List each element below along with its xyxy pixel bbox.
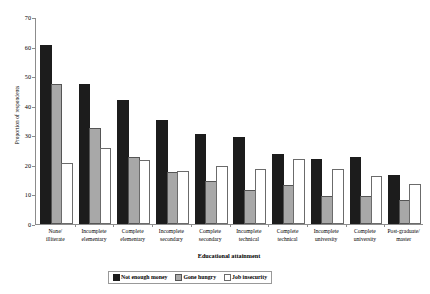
x-axis-category-label: Incompletetechnical (230, 228, 269, 243)
x-axis-category-label-line: illiterate (36, 236, 75, 244)
x-axis-category-label-line: master (384, 236, 423, 244)
x-axis-category-label-line: None/ (36, 228, 75, 236)
legend-swatch-icon (224, 274, 231, 282)
x-axis-category-label: None/illiterate (36, 228, 75, 243)
bar-group (346, 18, 385, 224)
legend-item: Gone hungry (175, 274, 216, 282)
x-axis-category-label-line: Complete (113, 228, 152, 236)
legend-label: Job insecurity (232, 274, 267, 280)
x-axis-tick-mark (230, 224, 231, 227)
bar (100, 148, 112, 224)
x-axis-category-label-line: Post-graduate/ (384, 228, 423, 236)
y-axis-tick-label: 10 (17, 192, 31, 198)
y-axis-tick-mark (32, 195, 35, 196)
bar (139, 160, 151, 224)
bar (332, 169, 344, 224)
y-axis-tick-label: 70 (17, 15, 31, 21)
y-axis-tick-mark (32, 48, 35, 49)
legend-swatch-icon (113, 274, 120, 282)
bar (177, 171, 189, 225)
x-axis-category-label-line: Incomplete (307, 228, 346, 236)
y-axis-tick-mark (32, 136, 35, 137)
x-axis-category-label-line: Complete (268, 228, 307, 236)
x-axis-category-label-line: Complete (191, 228, 230, 236)
bar (61, 163, 73, 224)
bar-group (152, 18, 191, 224)
x-axis-category-labels: None/illiterateIncompleteelementaryCompl… (36, 228, 423, 250)
x-axis-tick-mark (113, 224, 114, 227)
chart-legend: Not enough moneyGone hungryJob insecurit… (108, 271, 272, 284)
x-axis-category-label-line: elementary (113, 236, 152, 244)
y-axis-tick-label: 30 (17, 133, 31, 139)
x-axis-tick-mark (268, 224, 269, 227)
x-axis-category-label: Incompletesecondary (152, 228, 191, 243)
x-axis-tick-mark (191, 224, 192, 227)
x-axis-tick-mark (75, 224, 76, 227)
y-axis-tick-label: 60 (17, 45, 31, 51)
x-axis-category-label-line: Complete (346, 228, 385, 236)
bar-group (230, 18, 269, 224)
bar (255, 169, 267, 224)
bar-group (113, 18, 152, 224)
x-axis-category-label-line: Incomplete (75, 228, 114, 236)
x-axis-category-label: Completeuniversity (346, 228, 385, 243)
y-axis-tick-mark (32, 107, 35, 108)
x-axis-category-label: Incompleteuniversity (307, 228, 346, 243)
bar-group (36, 18, 75, 224)
x-axis-tick-mark (152, 224, 153, 227)
x-axis-category-label-line: technical (268, 236, 307, 244)
bar (216, 166, 228, 224)
x-axis-title: Educational attainment (35, 252, 423, 259)
legend-label: Not enough money (121, 274, 167, 280)
x-axis-category-label-line: secondary (191, 236, 230, 244)
x-axis-tick-mark (346, 224, 347, 227)
bar-group (75, 18, 114, 224)
legend-item: Job insecurity (224, 274, 267, 282)
x-axis-category-label-line: secondary (152, 236, 191, 244)
legend-label: Gone hungry (183, 274, 216, 280)
bars-layer (36, 18, 423, 224)
y-axis-tick-label: 0 (17, 222, 31, 228)
y-axis-tick-label: 50 (17, 74, 31, 80)
x-axis-category-label-line: university (346, 236, 385, 244)
bar (371, 176, 383, 224)
x-axis-category-label-line: Incomplete (152, 228, 191, 236)
legend-swatch-icon (175, 274, 182, 282)
y-axis-tick-mark (32, 18, 35, 19)
x-axis-category-label: Completeelementary (113, 228, 152, 243)
bar-chart: Proportion of respondents 01020304050607… (0, 0, 430, 294)
bar-group (384, 18, 423, 224)
x-axis-category-label: Post-graduate/master (384, 228, 423, 243)
x-axis-category-label-line: university (307, 236, 346, 244)
x-axis-category-label: Completesecondary (191, 228, 230, 243)
x-axis-tick-mark (384, 224, 385, 227)
bar-group (268, 18, 307, 224)
x-axis-category-label-line: Incomplete (230, 228, 269, 236)
bar (293, 159, 305, 224)
bar-group (307, 18, 346, 224)
y-axis-tick-mark (32, 225, 35, 226)
x-axis-tick-mark (307, 224, 308, 227)
x-axis-category-label-line: elementary (75, 236, 114, 244)
x-axis-category-label: Completetechnical (268, 228, 307, 243)
y-axis-tick-label: 20 (17, 163, 31, 169)
bar-group (191, 18, 230, 224)
x-axis-category-label-line: technical (230, 236, 269, 244)
y-axis-tick-mark (32, 166, 35, 167)
x-axis-category-label: Incompleteelementary (75, 228, 114, 243)
legend-item: Not enough money (113, 274, 167, 282)
plot-area: 010203040506070 (35, 18, 423, 225)
bar (409, 184, 421, 224)
y-axis-tick-mark (32, 77, 35, 78)
y-axis-tick-label: 40 (17, 104, 31, 110)
